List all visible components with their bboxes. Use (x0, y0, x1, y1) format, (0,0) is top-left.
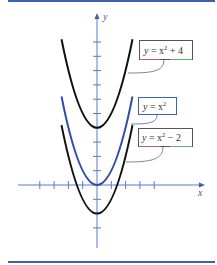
label-box-x-squared-plus-4: y = x2 + 4 (128, 41, 193, 74)
svg-text:y = x2: y = x2 (142, 100, 166, 112)
label-box-x-squared: y = x2 (131, 98, 177, 125)
y-axis-arrow-icon (95, 13, 100, 19)
parabola-diagram: y x y = x2 + 4 y = x2 (0, 0, 217, 265)
y-axis-label: y (102, 11, 108, 22)
svg-text:y = x2 − 2: y = x2 − 2 (141, 131, 181, 143)
x-axis (18, 181, 205, 189)
svg-text:y = x2 + 4: y = x2 + 4 (143, 44, 183, 56)
label-box-x-squared-minus-2: y = x2 − 2 (126, 129, 193, 163)
x-axis-label: x (197, 187, 203, 198)
